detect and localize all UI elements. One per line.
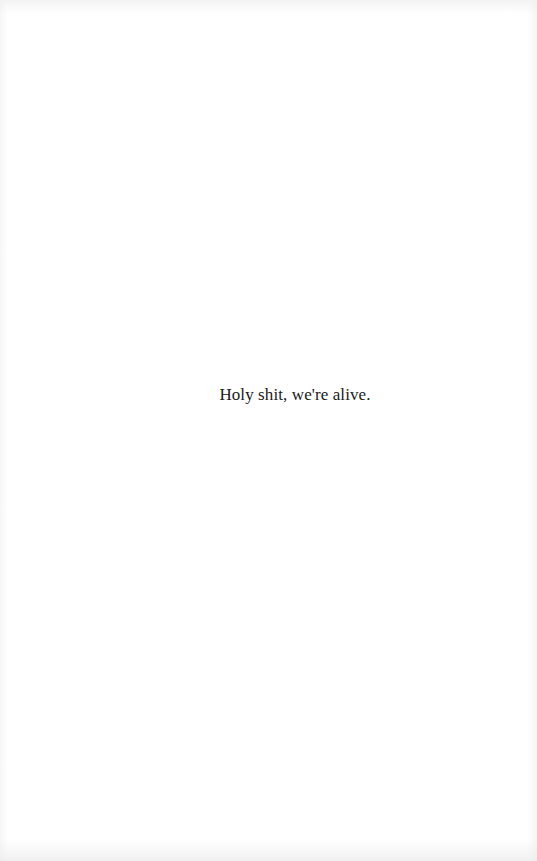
book-page: Holy shit, we're alive. <box>0 0 537 861</box>
scan-edge-right <box>527 0 537 861</box>
page-text-line: Holy shit, we're alive. <box>0 385 537 405</box>
scan-edge-top <box>0 0 537 14</box>
scan-edge-left <box>0 0 8 861</box>
scan-edge-bottom <box>0 839 537 861</box>
